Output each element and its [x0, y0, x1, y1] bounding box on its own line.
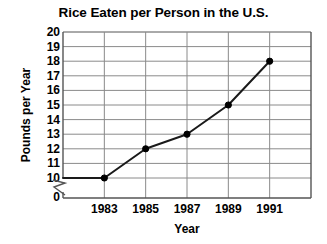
data-point-1983: [101, 175, 107, 181]
data-point-1991: [267, 58, 273, 64]
vertical-gridlines: [104, 32, 269, 198]
data-point-1985: [143, 146, 149, 152]
data-point-1989: [225, 102, 231, 108]
line-chart-figure: Rice Eaten per Person in the U.S. Pounds…: [0, 0, 327, 244]
plot-area: [0, 0, 327, 244]
data-point-1987: [184, 131, 190, 137]
